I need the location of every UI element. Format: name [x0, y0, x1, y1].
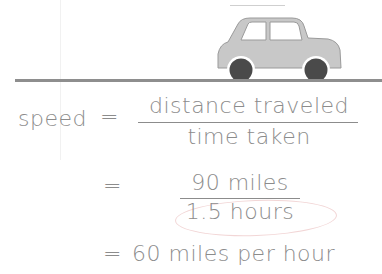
cropped-caption-underline [230, 5, 285, 6]
fraction-bar-1 [138, 122, 358, 123]
numerator-distance: distance traveled [138, 93, 360, 118]
denominator-time: time taken [138, 124, 360, 149]
numerator-90-miles: 90 miles [178, 170, 302, 195]
denominator-1-5-hours: 1.5 hours [178, 199, 302, 224]
speed-label: speed [18, 106, 87, 131]
road-line [15, 79, 382, 82]
equals-sign-3: = [103, 241, 122, 266]
equals-sign-2: = [103, 173, 122, 198]
result-speed: 60 miles per hour [132, 241, 335, 266]
equals-sign-1: = [100, 104, 119, 129]
car-illustration [210, 16, 345, 82]
